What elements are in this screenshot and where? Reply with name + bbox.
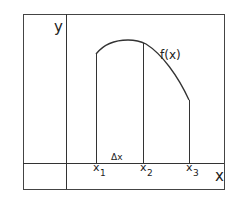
x-axis-label: x [215,167,224,185]
delta-x-label: Δx [111,152,123,162]
riemann-sum-diagram: y x f(x) Δx x 1 x 2 x 3 [0,0,238,198]
svg-text:1: 1 [100,168,106,178]
svg-text:3: 3 [193,168,199,178]
svg-text:x: x [140,161,147,174]
curve-label: f(x) [160,48,181,62]
svg-text:x: x [93,161,100,174]
svg-text:x: x [186,161,193,174]
y-axis-label: y [54,18,63,36]
svg-text:2: 2 [147,168,153,178]
